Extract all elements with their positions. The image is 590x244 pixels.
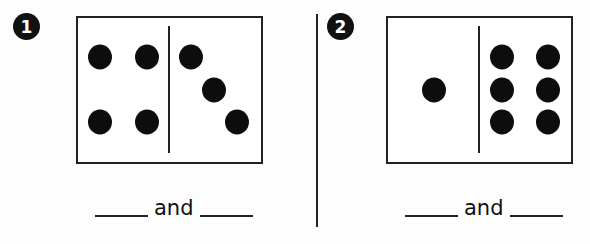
domino-divider-1 xyxy=(168,26,170,153)
dot xyxy=(536,110,560,135)
dot xyxy=(490,110,514,135)
answer-blank-right[interactable] xyxy=(200,197,253,217)
dot xyxy=(490,45,514,70)
dot xyxy=(422,78,446,103)
dot xyxy=(490,78,514,103)
connector-word: and xyxy=(154,197,194,219)
dot xyxy=(536,45,560,70)
dot xyxy=(536,78,560,103)
connector-word: and xyxy=(464,197,504,219)
dot xyxy=(135,45,159,70)
dot xyxy=(179,45,203,70)
column-separator xyxy=(316,14,318,227)
answer-blank-left[interactable] xyxy=(405,197,458,217)
answer-blank-right[interactable] xyxy=(510,197,563,217)
answer-blank-left[interactable] xyxy=(95,197,148,217)
dot xyxy=(225,110,249,135)
dot xyxy=(88,110,112,135)
problem-number-badge: 1 xyxy=(13,13,40,40)
answer-line-2: and xyxy=(405,197,563,219)
domino-divider-2 xyxy=(478,26,480,153)
dot xyxy=(202,78,226,103)
problem-number-badge: 2 xyxy=(327,13,354,40)
answer-line-1: and xyxy=(95,197,253,219)
dot xyxy=(135,110,159,135)
dot xyxy=(88,45,112,70)
